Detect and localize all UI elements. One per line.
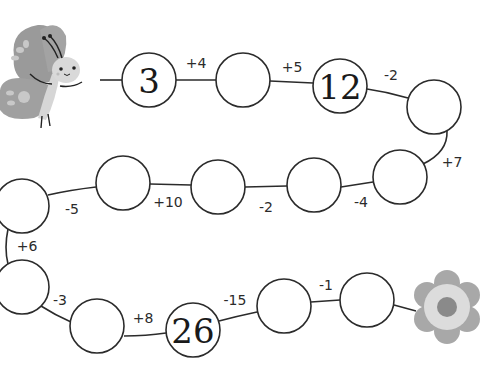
number-node: 3	[122, 53, 176, 107]
number-node[interactable]	[287, 158, 341, 212]
path-13-14	[311, 300, 340, 302]
number-node: 12	[313, 59, 367, 113]
empty-answer-circle[interactable]	[340, 273, 394, 327]
operation-label: -15	[224, 292, 247, 308]
operation-label: +4	[186, 55, 207, 71]
empty-answer-circle[interactable]	[0, 179, 49, 233]
path-10-11	[41, 306, 71, 322]
path-6-7	[245, 186, 287, 187]
node-value: 3	[138, 61, 160, 101]
number-node: 26	[166, 303, 220, 357]
operation-label: -2	[384, 67, 398, 83]
number-node[interactable]	[0, 179, 49, 233]
number-node[interactable]	[191, 160, 245, 214]
operation-label: -2	[259, 199, 273, 215]
operation-label: +10	[153, 194, 183, 210]
number-chain-puzzle: 31226 +4+5-2+7-4-2+10-5+6-3+8-15-1	[0, 0, 497, 381]
operation-label: -5	[65, 201, 79, 217]
number-node[interactable]	[96, 156, 150, 210]
empty-answer-circle[interactable]	[373, 150, 427, 204]
flower-icon	[414, 270, 480, 344]
node-value: 12	[318, 67, 361, 107]
number-node[interactable]	[0, 260, 49, 314]
empty-answer-circle[interactable]	[407, 80, 461, 134]
path-12-13	[219, 312, 257, 321]
number-node[interactable]	[373, 150, 427, 204]
empty-answer-circle[interactable]	[287, 158, 341, 212]
path-11-12	[124, 333, 166, 336]
operation-label: -1	[319, 277, 333, 293]
path-8-9	[48, 187, 96, 195]
empty-answer-circle[interactable]	[257, 279, 311, 333]
empty-answer-circle[interactable]	[96, 156, 150, 210]
empty-answer-circle[interactable]	[70, 299, 124, 353]
operation-label: +6	[17, 238, 38, 254]
node-value: 26	[171, 311, 214, 351]
number-node[interactable]	[216, 53, 270, 107]
empty-answer-circle[interactable]	[0, 260, 49, 314]
path-14-end	[394, 305, 416, 311]
empty-answer-circle[interactable]	[216, 53, 270, 107]
empty-answer-circle[interactable]	[191, 160, 245, 214]
puzzle-canvas: 31226 +4+5-2+7-4-2+10-5+6-3+8-15-1	[0, 0, 497, 381]
path-9-10	[6, 229, 8, 264]
number-node[interactable]	[340, 273, 394, 327]
operation-label: +7	[442, 154, 463, 170]
number-node[interactable]	[257, 279, 311, 333]
operation-label: -4	[354, 194, 368, 210]
path-5-6	[341, 182, 373, 187]
operation-label: -3	[53, 292, 67, 308]
path-7-8	[150, 184, 191, 185]
path-2-3	[270, 81, 313, 83]
number-node[interactable]	[70, 299, 124, 353]
path-3-4	[367, 89, 408, 98]
number-node[interactable]	[407, 80, 461, 134]
operation-label: +8	[133, 310, 154, 326]
operation-label: +5	[282, 59, 303, 75]
butterfly-icon	[0, 25, 82, 128]
